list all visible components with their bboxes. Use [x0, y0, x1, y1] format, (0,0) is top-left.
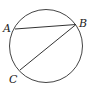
chord-ab: [15, 25, 76, 30]
chord-bc: [20, 25, 76, 71]
label-b: B: [78, 17, 87, 30]
circle: [10, 10, 83, 83]
circle-diagram: A B C: [0, 0, 89, 95]
label-c: C: [9, 73, 18, 86]
label-a: A: [2, 22, 11, 35]
